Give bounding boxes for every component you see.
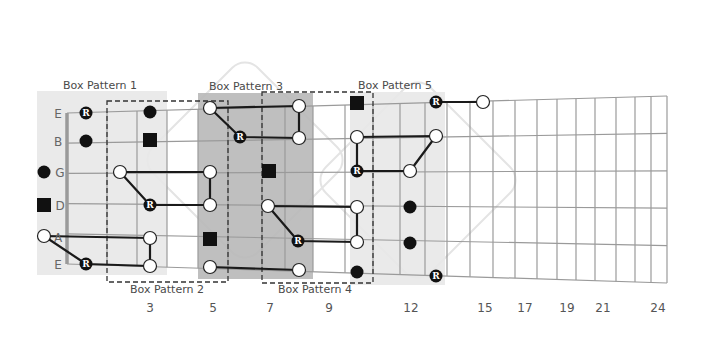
white-note-icon	[430, 130, 443, 143]
svg-text:R: R	[146, 200, 154, 210]
white-note-icon	[114, 166, 127, 179]
black-note-icon	[38, 166, 51, 179]
black-note-icon	[351, 266, 364, 279]
white-note-icon	[351, 236, 364, 249]
fret-number: 3	[146, 301, 154, 315]
white-note-icon	[144, 232, 157, 245]
string-label: E	[54, 258, 62, 272]
black-note-icon	[404, 237, 417, 250]
fret-number: 5	[209, 301, 217, 315]
svg-text:R: R	[432, 271, 440, 281]
svg-text:R: R	[82, 108, 90, 118]
root-note-icon: R	[80, 107, 93, 120]
string-label: G	[55, 166, 64, 180]
box-pattern-label: Box Pattern 1	[63, 79, 137, 92]
white-note-icon	[144, 260, 157, 273]
fret-number: 17	[517, 301, 532, 315]
white-note-icon	[262, 200, 275, 213]
svg-text:R: R	[353, 166, 361, 176]
white-note-icon	[293, 132, 306, 145]
box-pattern-5-shade	[350, 92, 445, 285]
white-note-icon	[204, 166, 217, 179]
box-pattern-3-shade	[198, 93, 313, 279]
square-note-icon	[203, 232, 217, 246]
root-note-icon: R	[292, 235, 305, 248]
square-note-icon	[350, 96, 364, 110]
fret-number: 12	[403, 301, 418, 315]
black-note-icon	[80, 135, 93, 148]
root-note-icon: R	[80, 258, 93, 271]
string-label: D	[55, 199, 64, 213]
svg-text:R: R	[82, 259, 90, 269]
root-note-icon: R	[351, 165, 364, 178]
fret-number: 21	[595, 301, 610, 315]
white-note-icon	[404, 165, 417, 178]
box-pattern-label: Box Pattern 4	[278, 283, 352, 296]
square-note-icon	[143, 133, 157, 147]
box-pattern-shading	[37, 91, 445, 285]
white-note-icon	[204, 102, 217, 115]
fret-number: 9	[325, 301, 333, 315]
fret-number: 24	[650, 301, 665, 315]
root-note-icon: R	[234, 131, 247, 144]
svg-text:R: R	[236, 132, 244, 142]
svg-text:R: R	[294, 236, 302, 246]
white-note-icon	[293, 264, 306, 277]
white-note-icon	[477, 96, 490, 109]
white-note-icon	[351, 201, 364, 214]
svg-text:R: R	[432, 97, 440, 107]
root-note-icon: R	[144, 199, 157, 212]
root-note-icon: R	[430, 96, 443, 109]
black-note-icon	[404, 201, 417, 214]
fret-number: 15	[477, 301, 492, 315]
square-note-icon	[37, 198, 51, 212]
root-note-icon: R	[430, 270, 443, 283]
box-pattern-label: Box Pattern 3	[209, 80, 283, 93]
white-note-icon	[204, 261, 217, 274]
string-label: A	[54, 231, 63, 245]
square-note-icon	[262, 164, 276, 178]
white-note-icon	[204, 199, 217, 212]
box-pattern-label: Box Pattern 5	[358, 79, 432, 92]
string-label: B	[54, 135, 62, 149]
white-note-icon	[293, 100, 306, 113]
fret-number: 7	[266, 301, 274, 315]
fretboard-diagram: RRRRRRRR EBGDAEBox Pattern 1Box Pattern …	[0, 0, 702, 355]
string-label: E	[54, 107, 62, 121]
black-note-icon	[144, 106, 157, 119]
box-pattern-label: Box Pattern 2	[130, 283, 204, 296]
white-note-icon	[38, 230, 51, 243]
fret-number: 19	[559, 301, 574, 315]
white-note-icon	[351, 131, 364, 144]
